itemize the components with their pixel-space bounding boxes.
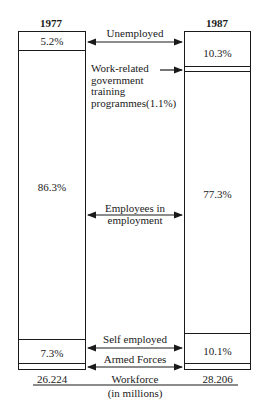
label-employees-line1: Employees in — [88, 202, 182, 214]
label-employees: Employees in employment — [88, 202, 182, 226]
label-workforce-line2: (in millions) — [88, 387, 182, 399]
workforce-1977: 26.224 — [18, 373, 86, 385]
label-training-line3: training — [91, 86, 183, 98]
label-unemployed: Unemployed — [88, 27, 182, 39]
label-training-line1: Work-related — [91, 63, 183, 75]
label-workforce: Workforce (in millions) — [88, 373, 182, 399]
label-self-employed: Self employed — [88, 333, 182, 345]
label-armed-forces: Armed Forces — [88, 353, 182, 365]
label-workforce-line1: Workforce — [88, 373, 182, 385]
label-employees-line2: employment — [88, 214, 182, 226]
label-training-line4: programmes(1.1%) — [91, 98, 183, 110]
label-training: Work-related government training program… — [91, 63, 183, 109]
workforce-1987: 28.206 — [184, 373, 251, 385]
